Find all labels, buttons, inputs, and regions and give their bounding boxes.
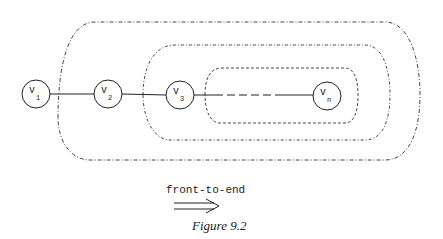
- node-vn-label: v: [320, 87, 326, 98]
- node-v1: v 1: [22, 80, 50, 108]
- node-v3-label: v: [173, 86, 179, 97]
- node-v2: v 2: [94, 80, 122, 108]
- node-v2-sub: 2: [108, 94, 112, 102]
- edge-v2-v3: [122, 94, 166, 95]
- node-v1-sub: 1: [36, 94, 40, 102]
- direction-label: front-to-end: [166, 184, 245, 196]
- node-v3-sub: 3: [180, 95, 184, 103]
- double-right-arrow-icon: [174, 199, 219, 213]
- node-vn-sub: n: [327, 96, 331, 104]
- path-graph-diagram: v 1 v 2 v 3 v n: [0, 0, 443, 239]
- figure: v 1 v 2 v 3 v n front-to-end Figure 9.2: [0, 0, 443, 239]
- node-vn: v n: [313, 82, 341, 110]
- node-v1-label: v: [29, 85, 35, 96]
- node-v3: v 3: [166, 81, 194, 109]
- figure-caption: Figure 9.2: [192, 218, 246, 234]
- node-v2-label: v: [101, 85, 107, 96]
